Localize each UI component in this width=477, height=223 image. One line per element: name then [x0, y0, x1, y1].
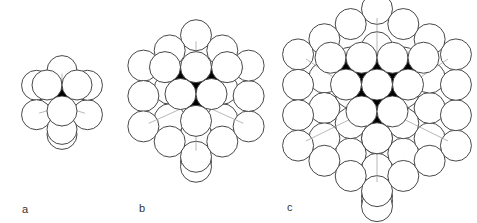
panel-label-a: a — [22, 203, 28, 215]
cluster-b — [128, 20, 264, 183]
panel-label-c: c — [287, 201, 293, 213]
cluster-c — [283, 0, 472, 222]
sphere-cluster-figure — [0, 0, 477, 223]
panel-label-b: b — [139, 202, 145, 214]
cluster-a — [22, 56, 103, 150]
